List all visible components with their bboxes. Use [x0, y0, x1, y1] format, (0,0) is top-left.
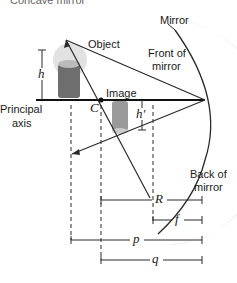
- label-front-of-mirror-2: mirror: [152, 60, 181, 72]
- label-front-of-mirror-1: Front of: [148, 47, 186, 59]
- label-p: p: [133, 233, 140, 245]
- label-principal-axis-2: axis: [12, 117, 32, 129]
- label-q: q: [152, 253, 159, 265]
- label-r: R: [155, 193, 163, 205]
- label-mirror: Mirror: [160, 14, 189, 26]
- image-candle: [112, 101, 128, 131]
- label-back-of-mirror-1: Back of: [190, 168, 227, 180]
- label-f: f: [175, 213, 179, 225]
- label-c: C: [90, 102, 99, 114]
- label-principal-axis-1: Principal: [0, 103, 42, 115]
- label-h-prime: h′: [136, 108, 145, 120]
- label-back-of-mirror-2: mirror: [194, 181, 223, 193]
- label-h: h: [38, 68, 45, 80]
- label-image: Image: [106, 87, 137, 99]
- object-candle: [58, 64, 80, 98]
- label-object: Object: [88, 38, 120, 50]
- concave-mirror-diagram: Concave mirror: [0, 0, 237, 283]
